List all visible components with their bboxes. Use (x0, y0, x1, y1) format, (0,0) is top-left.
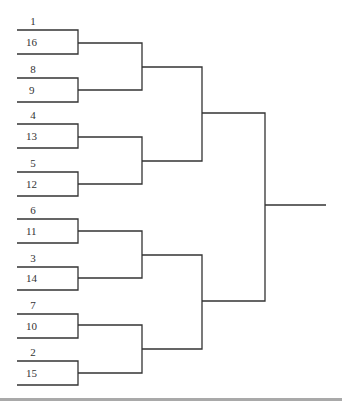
seed-label: 7 (18, 300, 48, 311)
bottom-divider (0, 398, 342, 401)
round2-b (78, 137, 142, 184)
seed-label: 13 (26, 131, 37, 142)
round3-b (142, 255, 202, 349)
seed-label: 14 (26, 273, 37, 284)
round2-d (78, 325, 142, 373)
seed-label: 3 (18, 253, 48, 264)
round2-a (78, 43, 142, 90)
seed-label: 11 (26, 226, 37, 237)
seed-label: 2 (18, 347, 48, 358)
seed-label: 8 (18, 64, 48, 75)
seed-label: 16 (26, 37, 37, 48)
seed-label: 4 (18, 110, 48, 121)
seed-label: 12 (26, 179, 37, 190)
seed-label: 1 (18, 16, 48, 27)
round4 (202, 113, 265, 301)
seed-label: 15 (26, 368, 37, 379)
seed-label: 9 (29, 85, 35, 96)
round2-c (78, 231, 142, 278)
matchup-2-lines (17, 78, 78, 102)
bracket-lines (0, 0, 342, 403)
seed-label: 5 (18, 158, 48, 169)
round3-a (142, 67, 202, 161)
seed-label: 6 (18, 205, 48, 216)
seed-label: 10 (26, 321, 37, 332)
tournament-bracket: 1 16 8 9 4 13 5 12 6 11 3 14 7 10 2 15 (0, 0, 342, 403)
